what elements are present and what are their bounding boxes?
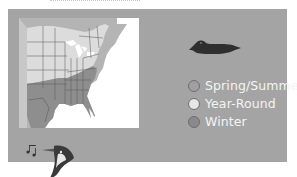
cropped-title-remnant <box>50 0 140 4</box>
legend-swatch-winter <box>188 116 200 128</box>
legend-label: Winter <box>205 114 247 129</box>
range-map-panel: Spring/Summer Year-Round Winter <box>8 9 287 162</box>
legend-swatch-spring-summer <box>188 80 200 92</box>
legend: Spring/Summer Year-Round Winter <box>188 77 297 131</box>
legend-label: Year-Round <box>205 96 276 111</box>
legend-item-year-round: Year-Round <box>188 95 297 112</box>
legend-label: Spring/Summer <box>205 78 297 93</box>
legend-item-spring-summer: Spring/Summer <box>188 77 297 94</box>
legend-item-winter: Winter <box>188 113 297 130</box>
range-map <box>19 18 139 128</box>
legend-swatch-year-round <box>188 98 200 110</box>
duck-silhouette-icon <box>185 36 243 56</box>
singing-bird-head-icon <box>20 140 80 177</box>
